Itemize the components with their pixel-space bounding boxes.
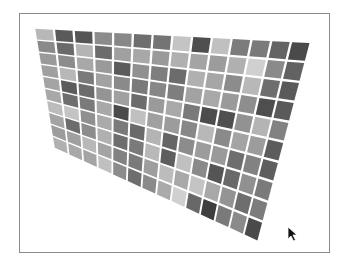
grid-tile <box>187 70 205 87</box>
grid-tile <box>75 31 93 44</box>
grid-tile <box>37 41 55 54</box>
mouse-cursor-icon <box>287 226 299 242</box>
grid-tile <box>55 30 73 43</box>
grid-tile <box>227 57 247 74</box>
grid-tile <box>152 51 170 66</box>
grid-tile <box>211 38 231 55</box>
grid-tile <box>224 75 243 93</box>
grid-tile <box>217 110 235 129</box>
grid-tile <box>208 55 227 72</box>
grid-tile <box>167 84 184 101</box>
grid-tile <box>114 62 131 77</box>
grid-tile <box>149 81 166 97</box>
grid-tile <box>172 36 191 52</box>
grid-tile <box>220 92 239 111</box>
grid-tile <box>191 37 210 53</box>
grid-tile <box>114 47 131 62</box>
grid-tile <box>76 44 93 58</box>
grid-tile <box>205 72 224 90</box>
grid-tile <box>114 33 132 47</box>
grid-tile <box>151 66 169 82</box>
grid-tile <box>132 64 149 79</box>
grid-tile <box>35 29 54 41</box>
grid-tile <box>153 35 171 50</box>
grid-tile <box>57 42 75 55</box>
grid-tile <box>185 87 203 104</box>
grid-tile <box>230 39 250 56</box>
grid-tile <box>203 90 221 108</box>
grid-tile <box>95 46 112 60</box>
grid-tile <box>134 34 152 48</box>
grid-tile <box>95 32 112 45</box>
grid-tile <box>170 52 188 68</box>
grid-tile <box>133 49 151 64</box>
grid-tile <box>189 54 208 70</box>
grid-tile <box>95 59 111 73</box>
grid-tile <box>169 68 187 85</box>
